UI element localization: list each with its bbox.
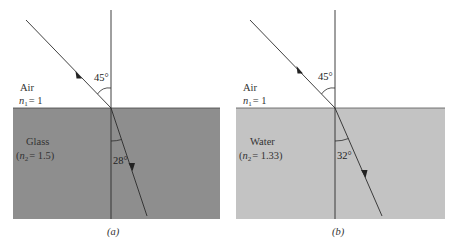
upper-medium-name-a: Air	[20, 82, 34, 94]
panel-b	[236, 10, 445, 219]
index-value: = 1	[253, 95, 267, 106]
index-subscript: 2	[248, 155, 252, 163]
lower-medium-index-b: (n2 = 1.33)	[239, 150, 283, 165]
index-subscript: 1	[24, 100, 28, 108]
panel-a	[13, 10, 220, 219]
upper-medium-index-a: n1 = 1	[19, 95, 42, 110]
refracted-angle-label-a: 28°	[113, 155, 128, 167]
refraction-diagram	[0, 0, 457, 248]
refracted-angle-label-b: 32°	[337, 150, 352, 162]
incident-angle-arc	[98, 88, 112, 94]
incident-arrow-icon	[297, 66, 304, 74]
lower-medium-name-b: Water	[250, 136, 275, 148]
lower-medium-index-a: (n2 = 1.5)	[16, 150, 54, 165]
caption-a: (a)	[107, 226, 119, 237]
lower-medium-name-a: Glass	[26, 136, 49, 148]
incident-angle-label-b: 45°	[318, 71, 333, 83]
index-value: = 1.5)	[29, 150, 54, 161]
index-subscript: 2	[25, 155, 29, 163]
incident-angle-arc	[322, 88, 336, 94]
index-subscript: 1	[248, 100, 252, 108]
upper-medium-index-b: n1 = 1	[243, 95, 266, 110]
index-value: = 1	[29, 95, 43, 106]
caption-b: (b)	[332, 226, 344, 237]
incident-angle-label-a: 45°	[94, 72, 109, 84]
index-value: = 1.33)	[252, 150, 282, 161]
upper-medium-name-b: Air	[243, 82, 257, 94]
